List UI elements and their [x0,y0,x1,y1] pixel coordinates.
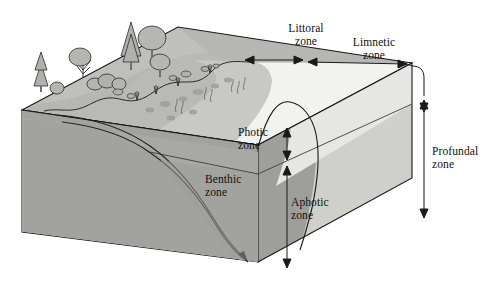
label-benthic-line2: zone [205,186,255,199]
label-photic-zone: Photic zone [238,126,284,151]
label-aphotic-zone: Aphotic zone [291,196,343,221]
deciduous-tree-icon [69,48,91,66]
label-aphotic-line2: zone [291,209,343,222]
label-benthic-line1: Benthic [205,173,255,186]
label-limnetic-line1: Limnetic [340,36,408,49]
conifer-tree-icon [34,52,48,92]
label-benthic-zone: Benthic zone [205,173,255,198]
label-profundal-line1: Profundal [432,145,484,158]
lake-zones-figure: Littoral zone Limnetic zone Profundal zo… [0,0,485,285]
shrub-icon [50,82,64,94]
label-limnetic-line2: zone [340,49,408,62]
label-littoral-line1: Littoral [276,22,336,35]
label-photic-line1: Photic [238,126,284,139]
label-profundal-zone: Profundal zone [432,145,484,170]
label-photic-line2: zone [238,139,284,152]
profundal-arrow [412,66,428,218]
label-littoral-line2: zone [276,35,336,48]
label-littoral-zone: Littoral zone [276,22,336,47]
label-aphotic-line1: Aphotic [291,196,343,209]
label-profundal-line2: zone [432,158,484,171]
label-limnetic-zone: Limnetic zone [340,36,408,61]
